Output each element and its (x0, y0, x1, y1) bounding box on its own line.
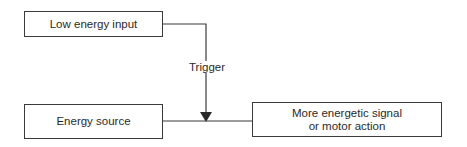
low-energy-input-box: Low energy input (24, 11, 163, 37)
output-label-line2: or motor action (309, 120, 386, 133)
output-box: More energetic signal or motor action (252, 102, 442, 137)
low-energy-input-label: Low energy input (50, 18, 138, 31)
energy-source-box: Energy source (24, 104, 163, 139)
trigger-label: Trigger (189, 61, 225, 73)
energy-source-label: Energy source (56, 115, 130, 128)
output-label-line1: More energetic signal (292, 107, 402, 120)
